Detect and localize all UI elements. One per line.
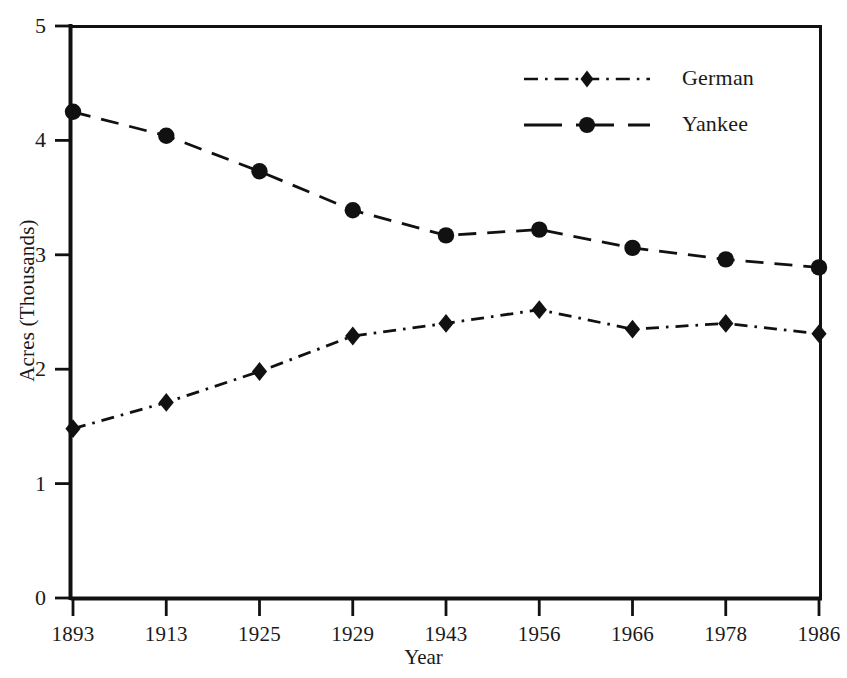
data-point-german <box>252 362 267 381</box>
x-axis-ticks <box>73 598 819 616</box>
data-point-german <box>532 300 547 319</box>
line-chart: 012345 189319131925192919431956196619781… <box>0 0 847 678</box>
legend-item-yankee: Yankee <box>522 112 822 158</box>
y-tick-label: 4 <box>0 129 46 151</box>
data-point-yankee <box>65 104 81 120</box>
legend-item-german: German <box>522 66 822 112</box>
x-tick-label: 1986 <box>764 624 847 645</box>
data-point-yankee <box>251 163 267 179</box>
data-point-german <box>65 419 80 438</box>
x-axis-title: Year <box>0 645 847 670</box>
data-point-german <box>718 314 733 333</box>
data-point-yankee <box>345 202 361 218</box>
data-point-yankee <box>624 240 640 256</box>
data-point-yankee <box>531 221 547 237</box>
chart-legend: German Yankee <box>522 66 822 158</box>
data-point-yankee <box>811 259 827 275</box>
y-tick-label: 1 <box>0 473 46 495</box>
y-tick-label: 0 <box>0 587 46 609</box>
data-point-german <box>625 320 640 339</box>
data-point-yankee <box>438 227 454 243</box>
data-point-german <box>811 324 826 343</box>
data-point-german <box>159 393 174 412</box>
data-point-yankee <box>158 128 174 144</box>
y-axis-title: Acres (Thousands) <box>15 171 40 431</box>
legend-label-german: German <box>682 65 754 91</box>
data-point-german <box>438 314 453 333</box>
legend-swatch-dashdot-diamond-icon <box>522 66 652 92</box>
y-tick-label: 5 <box>0 15 46 37</box>
legend-swatch-dashed-circle-icon <box>522 112 652 138</box>
data-point-german <box>345 327 360 346</box>
data-point-yankee <box>718 251 734 267</box>
legend-label-yankee: Yankee <box>682 111 748 137</box>
